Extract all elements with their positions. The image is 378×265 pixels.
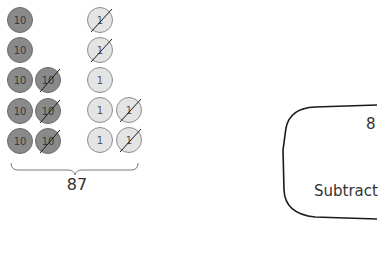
box-number: 8 bbox=[366, 115, 376, 133]
box-label: Subtract bbox=[314, 182, 378, 200]
